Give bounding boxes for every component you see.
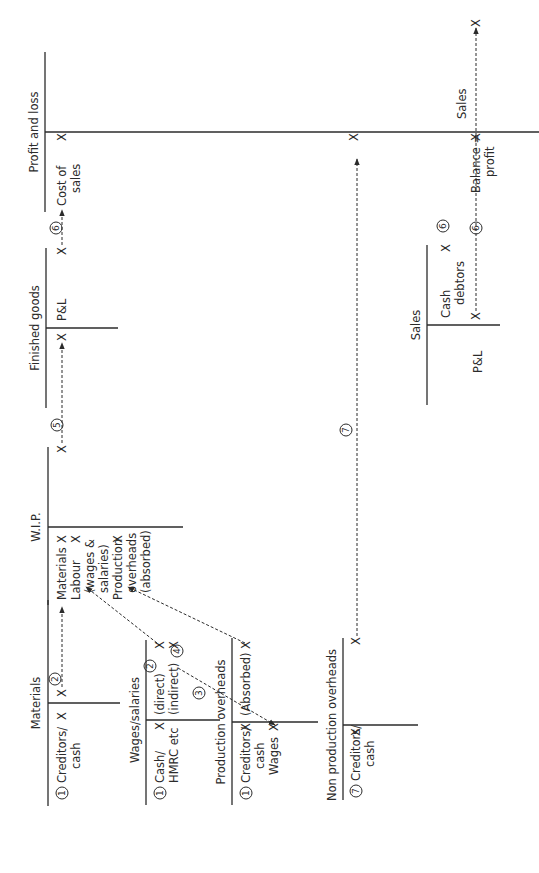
non-production-overheads-title: Non production overheads: [325, 649, 339, 801]
production-overheads-account: Production overheads 1 Creditors/ cash W…: [171, 638, 318, 805]
svg-text:profit: profit: [483, 146, 497, 177]
svg-text:(wages &: (wages &: [83, 539, 97, 593]
svg-text:Materials: Materials: [55, 547, 69, 600]
svg-text:X: X: [153, 722, 167, 730]
svg-text:4: 4: [172, 648, 182, 654]
svg-text:P&L: P&L: [55, 298, 69, 321]
svg-text:X: X: [239, 641, 253, 649]
svg-text:X: X: [55, 333, 69, 341]
svg-text:1: 1: [57, 790, 67, 796]
svg-text:3: 3: [194, 690, 204, 696]
svg-text:cash: cash: [363, 740, 377, 767]
svg-text:X: X: [55, 247, 69, 255]
svg-text:1: 1: [241, 790, 251, 796]
svg-text:7: 7: [351, 788, 361, 794]
profit-and-loss-title: Profit and loss: [27, 91, 41, 172]
svg-text:X: X: [55, 133, 69, 141]
svg-text:X: X: [153, 641, 167, 649]
svg-text:X: X: [111, 535, 125, 543]
svg-text:X: X: [349, 728, 363, 736]
svg-text:2: 2: [145, 663, 155, 669]
svg-text:salaries): salaries): [97, 544, 111, 593]
svg-text:(absorbed): (absorbed): [139, 530, 153, 593]
finished-goods-title: Finished goods: [28, 285, 42, 370]
svg-text:Cash/: Cash/: [153, 751, 167, 783]
svg-text:Creditors/: Creditors/: [55, 727, 69, 783]
svg-text:X: X: [55, 712, 69, 720]
svg-text:7: 7: [341, 427, 351, 433]
svg-text:2: 2: [50, 676, 60, 682]
svg-text:Cost of: Cost of: [55, 165, 69, 206]
wip-title: W.I.P.: [29, 512, 43, 542]
svg-text:cash: cash: [69, 742, 83, 769]
materials-account: Materials 1 Creditors/ cash X X 2: [29, 600, 120, 806]
svg-text:Wages: Wages: [267, 737, 281, 775]
svg-text:X: X: [55, 535, 69, 543]
svg-text:debtors: debtors: [453, 261, 467, 305]
cost-accounting-flow-diagram: Materials 1 Creditors/ cash X X 2 Wages/…: [0, 0, 539, 873]
svg-text:6: 6: [51, 225, 61, 231]
wages-title: Wages/salaries: [128, 677, 142, 763]
svg-text:5: 5: [52, 422, 62, 428]
svg-text:HMRC etc: HMRC etc: [167, 727, 181, 783]
svg-text:overheads: overheads: [125, 533, 139, 593]
svg-text:X: X: [347, 133, 361, 141]
materials-title: Materials: [29, 677, 43, 730]
sales-account: Sales P&L Cash debtors X 6 X 6: [409, 220, 500, 405]
svg-text:X: X: [469, 19, 483, 27]
svg-text:1: 1: [155, 790, 165, 796]
svg-text:X: X: [439, 244, 453, 252]
svg-text:Labour: Labour: [69, 560, 83, 600]
svg-text:6: 6: [438, 223, 448, 229]
non-production-overheads-account: Non production overheads 7 Creditors/ ca…: [325, 424, 418, 801]
svg-text:cash: cash: [253, 742, 267, 769]
svg-text:P&L: P&L: [471, 350, 485, 373]
svg-text:(direct): (direct): [153, 673, 167, 715]
production-overheads-title: Production overheads: [214, 659, 228, 784]
svg-text:X: X: [239, 723, 253, 731]
svg-text:Creditors/: Creditors/: [239, 727, 253, 783]
svg-text:Production: Production: [111, 539, 125, 600]
svg-text:X: X: [55, 689, 69, 697]
sales-title: Sales: [409, 310, 423, 341]
wages-account: Wages/salaries 1 Cash/ HMRC etc X (direc…: [128, 640, 220, 805]
svg-text:X: X: [55, 445, 69, 453]
profit-and-loss-account: Profit and loss Cost of sales X X Balanc…: [27, 19, 539, 212]
svg-text:sales: sales: [69, 164, 83, 193]
svg-text:X: X: [469, 312, 483, 320]
finished-goods-account: Finished goods X P&L X 6: [28, 222, 118, 408]
svg-text:X: X: [69, 535, 83, 543]
svg-text:(Absorbed): (Absorbed): [239, 652, 253, 716]
svg-text:(indirect): (indirect): [167, 663, 181, 715]
svg-text:Cash: Cash: [439, 290, 453, 318]
svg-text:Sales: Sales: [455, 88, 469, 119]
wip-account: W.I.P. Materials X Labour X (wages & sal…: [29, 419, 183, 605]
svg-text:X: X: [349, 637, 363, 645]
arrow-prod-oh-to-wip: [128, 587, 245, 643]
